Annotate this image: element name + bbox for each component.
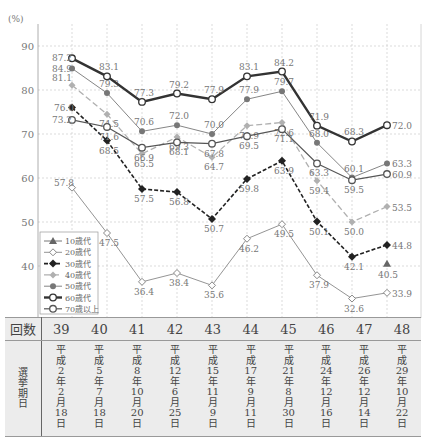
y-tick-label: 40	[21, 261, 34, 272]
date-cell: 平成15年11月9日	[194, 341, 232, 437]
data-label: 77.9	[204, 85, 224, 95]
data-label: 63.3	[309, 168, 329, 178]
data-point-marker	[50, 306, 57, 313]
session-cell: 43	[194, 318, 232, 341]
legend-label: 10歳代	[65, 236, 91, 246]
data-label: 50.0	[344, 227, 364, 237]
y-tick-label: 60	[21, 173, 34, 184]
date-cell: 平成24年12月16日	[307, 341, 345, 437]
data-point-marker	[383, 241, 391, 249]
data-label: 76.0	[54, 103, 74, 113]
data-label: 57.8	[54, 178, 74, 188]
data-point-marker	[174, 139, 181, 146]
y-tick-label: 90	[21, 41, 34, 52]
data-label: 32.6	[344, 304, 364, 314]
y-tick-label: 80	[21, 85, 34, 96]
data-label: 67.8	[204, 149, 224, 159]
data-label: 42.1	[344, 262, 364, 272]
data-point-marker	[349, 177, 356, 184]
data-label: 66.9	[134, 153, 154, 163]
data-label: 68.5	[99, 146, 119, 156]
data-point-marker	[384, 171, 391, 178]
data-label: 40.5	[378, 270, 398, 280]
data-point-marker	[244, 96, 250, 102]
data-label: 70.6	[134, 117, 154, 127]
data-label: 73.2	[52, 115, 72, 125]
data-label: 50.1	[309, 227, 329, 237]
data-label: 71.1	[274, 134, 294, 144]
date-cell: 平成17年9月11日	[232, 341, 270, 437]
data-point-marker	[279, 88, 285, 94]
data-point-marker	[314, 140, 320, 146]
data-point-marker	[139, 144, 146, 151]
data-point-marker	[104, 124, 111, 131]
date-cell: 平成21年8月30日	[270, 341, 308, 437]
data-label: 69.5	[239, 141, 259, 151]
data-point-marker	[104, 90, 110, 96]
session-cell: 47	[345, 318, 383, 341]
data-point-marker	[139, 128, 145, 134]
data-label: 35.6	[204, 290, 224, 300]
data-label: 47.5	[99, 238, 119, 248]
data-label: 63.3	[392, 159, 412, 169]
data-label: 64.7	[204, 162, 224, 172]
y-tick-label: 70	[21, 129, 34, 140]
y-tick-label: 50	[21, 217, 34, 228]
data-label: 77.9	[239, 85, 259, 95]
data-point-marker	[349, 138, 356, 145]
data-point-marker	[279, 126, 286, 133]
date-cell: 平成5年7月18日	[80, 341, 118, 437]
data-point-marker	[314, 160, 321, 167]
legend-label: 40歳代	[65, 270, 91, 280]
data-point-marker	[384, 203, 391, 210]
data-point-marker	[383, 260, 391, 267]
data-point-marker	[50, 294, 57, 301]
series-20歳代: 57.847.536.438.435.646.249.537.932.633.9	[54, 178, 412, 314]
data-label: 50.7	[204, 224, 224, 234]
date-cell: 平成8年10月20日	[118, 341, 156, 437]
data-label: 68.1	[169, 147, 189, 157]
data-label: 36.4	[134, 287, 154, 297]
data-point-marker	[209, 140, 216, 147]
data-point-marker	[279, 68, 286, 75]
data-label: 56.8	[169, 197, 189, 207]
session-cell: 48	[383, 318, 421, 341]
data-point-marker	[244, 133, 251, 140]
data-label: 44.8	[392, 241, 412, 251]
data-label: 53.5	[392, 203, 412, 213]
session-cell: 41	[118, 318, 156, 341]
data-point-marker	[384, 160, 390, 166]
date-cell: 平成12年6月25日	[156, 341, 194, 437]
data-label: 81.1	[52, 73, 72, 83]
data-label: 63.9	[274, 166, 294, 176]
legend-label: 70歳以上	[65, 304, 99, 314]
data-point-marker	[139, 278, 146, 285]
data-point-marker	[174, 270, 181, 277]
session-header: 回数	[5, 318, 42, 341]
data-label: 38.4	[169, 278, 189, 288]
date-cell: 平成26年12月14日	[345, 341, 383, 437]
session-cell: 40	[80, 318, 118, 341]
data-label: 84.2	[274, 58, 294, 68]
data-label: 87.2	[52, 53, 72, 63]
data-point-marker	[313, 218, 321, 226]
date-header: 選挙期日	[5, 341, 42, 437]
data-point-marker	[314, 272, 321, 279]
data-label: 60.9	[392, 170, 412, 180]
data-label: 59.8	[239, 184, 259, 194]
data-label: 83.1	[239, 62, 259, 72]
session-cell: 39	[42, 318, 81, 341]
data-point-marker	[174, 122, 180, 128]
turnout-line-chart: 40506070809040.557.847.536.438.435.646.2…	[0, 0, 431, 318]
legend-label: 50歳代	[65, 281, 91, 291]
data-label: 46.2	[239, 244, 259, 254]
data-point-marker	[278, 157, 286, 165]
data-point-marker	[384, 289, 391, 296]
data-point-marker	[50, 283, 56, 289]
data-point-marker	[174, 90, 181, 97]
data-point-marker	[384, 122, 391, 129]
session-cell: 44	[232, 318, 270, 341]
data-label: 37.9	[309, 280, 329, 290]
data-label: 59.4	[309, 186, 329, 196]
data-label: 71.9	[309, 112, 329, 122]
